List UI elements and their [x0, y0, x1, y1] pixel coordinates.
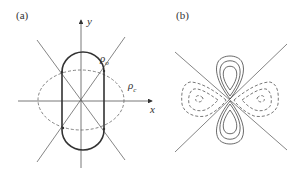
rho-c-label: ρc — [128, 80, 136, 94]
x-axis-label: x — [150, 104, 155, 115]
rho-o-sub: o — [105, 59, 109, 67]
right-lobe-contours — [234, 82, 278, 117]
figure-canvas — [0, 0, 298, 176]
rho-o-label: ρo — [100, 53, 109, 67]
rho-c-sub: c — [133, 86, 136, 94]
panel-b-label: (b) — [176, 10, 189, 21]
panel-b — [175, 44, 287, 152]
intersection-dot — [62, 127, 64, 129]
intersection-dot — [103, 128, 105, 130]
panel-a-label: (a) — [16, 10, 28, 21]
y-axis-label: y — [87, 16, 92, 27]
left-lobe-contours — [182, 82, 226, 117]
intersection-dot — [103, 70, 105, 72]
intersection-dot — [61, 71, 63, 73]
bottom-lobe-contours — [217, 101, 244, 144]
top-lobe-contours — [217, 56, 244, 99]
